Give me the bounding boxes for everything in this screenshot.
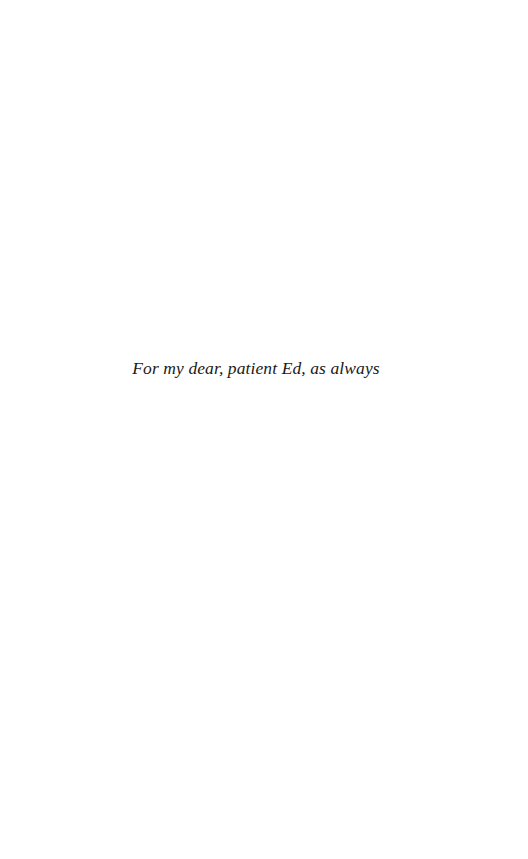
dedication-text: For my dear, patient Ed, as always bbox=[0, 357, 512, 379]
book-page: For my dear, patient Ed, as always bbox=[0, 0, 528, 859]
